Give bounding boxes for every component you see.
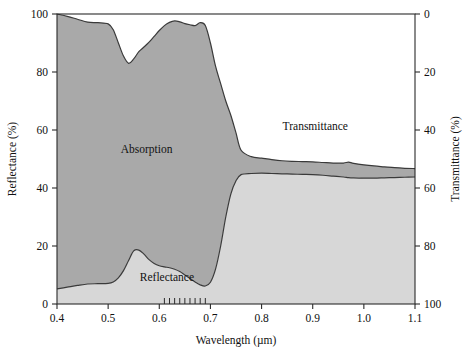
- region-label-reflectance: Reflectance: [140, 271, 194, 283]
- y-axis-tick-labels: 020406080100: [31, 8, 49, 310]
- x-tick-label: 1.0: [357, 312, 372, 324]
- y-tick-label: 100: [31, 8, 49, 20]
- x-tick-label: 0.7: [203, 312, 218, 324]
- x-tick-label: 0.4: [50, 312, 65, 324]
- y2-axis-ticks: [415, 14, 420, 304]
- y-tick-label: 60: [37, 124, 49, 136]
- x-tick-label: 0.9: [306, 312, 321, 324]
- y-tick-label: 40: [37, 182, 49, 194]
- y2-tick-label: 20: [424, 66, 436, 78]
- y2-axis-tick-labels: 020406080100: [424, 8, 442, 310]
- y2-tick-label: 100: [424, 298, 442, 310]
- y-tick-label: 80: [37, 66, 49, 78]
- region-label-absorption: Absorption: [121, 143, 173, 156]
- y2-tick-label: 40: [424, 124, 436, 136]
- x-axis-ticks: [57, 304, 415, 309]
- plot-regions: [57, 14, 415, 304]
- y-axis-ticks: [52, 14, 57, 304]
- x-axis-title: Wavelength (µm): [196, 334, 277, 347]
- x-tick-label: 0.6: [152, 312, 167, 324]
- y2-tick-label: 0: [424, 8, 430, 20]
- x-tick-label: 1.1: [408, 312, 423, 324]
- x-axis-tick-labels: 0.40.50.60.70.80.91.01.1: [50, 312, 423, 324]
- x-tick-label: 0.8: [254, 312, 269, 324]
- figure-container: 0.40.50.60.70.80.91.01.1 020406080100 02…: [0, 0, 474, 359]
- y-axis-title: Reflectance (%): [6, 122, 19, 197]
- y-tick-label: 20: [37, 240, 49, 252]
- y-tick-label: 0: [42, 298, 48, 310]
- y2-tick-label: 60: [424, 182, 436, 194]
- y2-tick-label: 80: [424, 240, 436, 252]
- chart-canvas: 0.40.50.60.70.80.91.01.1 020406080100 02…: [0, 0, 474, 359]
- region-label-transmittance: Transmittance: [283, 120, 348, 132]
- y2-axis-title: Transmittance (%): [449, 116, 462, 202]
- x-tick-label: 0.5: [101, 312, 116, 324]
